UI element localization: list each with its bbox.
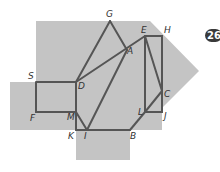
label-d: D (78, 81, 85, 91)
label-k: K (68, 131, 75, 141)
label-b: B (130, 131, 136, 141)
geometry-figure: G A E H S D F M K I B L C J (0, 0, 220, 172)
label-g: G (106, 9, 113, 19)
label-l: L (138, 107, 143, 117)
label-e: E (141, 25, 147, 35)
label-f: F (30, 113, 36, 123)
shaded-regions (10, 21, 199, 160)
left-rectangle (10, 82, 76, 130)
label-a: A (126, 46, 133, 56)
problem-number-badge: 26 (205, 29, 220, 42)
label-i: I (84, 131, 87, 141)
label-m: M (67, 112, 75, 122)
label-c: C (164, 89, 171, 99)
label-h: H (164, 25, 171, 35)
label-s: S (28, 71, 34, 81)
